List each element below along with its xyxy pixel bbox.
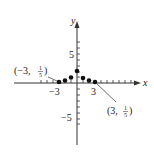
data-point xyxy=(87,78,92,83)
annotation-leader-left xyxy=(48,77,57,81)
annotation-right: (3, 1 5 ) xyxy=(107,105,132,118)
svg-text:1: 1 xyxy=(124,105,127,111)
tick-label-neg3: −3 xyxy=(49,86,60,97)
svg-text:(−3,: (−3, xyxy=(14,65,30,77)
tick-label-3: 3 xyxy=(91,86,96,97)
x-axis-label: x xyxy=(142,77,148,88)
svg-text:): ) xyxy=(44,65,47,77)
y-axis-label: y xyxy=(70,15,76,26)
data-point xyxy=(69,75,74,80)
svg-text:5: 5 xyxy=(124,112,127,118)
svg-text:): ) xyxy=(129,105,132,117)
data-point xyxy=(93,80,98,85)
data-point xyxy=(81,76,86,81)
annotation-left: (−3, 1 5 ) xyxy=(14,65,47,78)
x-axis-arrow-icon xyxy=(134,81,141,86)
svg-text:(3,: (3, xyxy=(107,105,118,117)
annotation-leader-right xyxy=(97,84,116,102)
tick-label-neg5: −5 xyxy=(61,112,72,123)
tick-label-5: 5 xyxy=(69,49,74,60)
svg-text:1: 1 xyxy=(39,65,42,71)
data-point xyxy=(63,78,68,83)
data-point xyxy=(75,69,80,74)
plot-canvas: y x −3 3 5 −5 (−3, 1 5 ) (3, 1 5 ) xyxy=(0,0,154,153)
svg-text:5: 5 xyxy=(39,72,42,78)
data-point xyxy=(57,80,62,85)
